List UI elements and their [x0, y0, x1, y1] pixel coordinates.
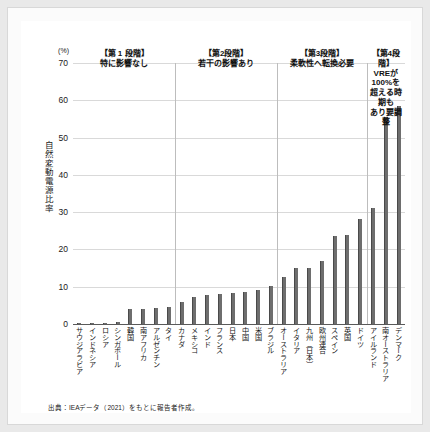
x-tick-label-南オーストラリア: 南オーストラリア [382, 327, 389, 415]
bar-slot [316, 63, 329, 324]
bar-メキシコ [192, 297, 196, 324]
bar-slot [328, 63, 341, 324]
x-label-slot: フランス [213, 327, 226, 415]
stage-subtitle: 若干の影響あり [175, 59, 277, 69]
x-label-slot: 南オーストラリア [379, 327, 392, 415]
bar-slot [354, 63, 367, 324]
bar-韓国 [128, 309, 132, 324]
x-label-slot: アイルランド [367, 327, 380, 415]
source-note: 出典：IEAデータ（2021）をもとに報告者作成。 [48, 402, 199, 412]
x-tick-label-オーストラリア: オーストラリア [280, 327, 287, 415]
bar-米国 [256, 290, 260, 324]
x-label-slot: イタリア [290, 327, 303, 415]
bar-フランス [218, 294, 222, 324]
bar-日本 [231, 293, 235, 324]
bar-slot [277, 63, 290, 324]
y-tick-50: 50 [59, 133, 68, 143]
bar-オーストラリア [282, 277, 286, 324]
x-tick-label-欧州連合: 欧州連合 [318, 327, 325, 415]
bar-インドネシア [90, 323, 94, 324]
bar-南オーストラリア [384, 117, 388, 324]
bar-slot [264, 63, 277, 324]
stage-title: 【第4段階】 [367, 49, 405, 69]
x-tick-label-スペイン: スペイン [331, 327, 338, 415]
bar-カナダ [180, 302, 184, 324]
bar-シンガポール [116, 322, 120, 324]
bar-アルゼンチン [154, 308, 158, 324]
y-tick-70: 70 [59, 58, 68, 68]
bar-slot [175, 63, 188, 324]
x-label-slot: ブラジル [264, 327, 277, 415]
bar-slot [290, 63, 303, 324]
bar-slot [162, 63, 175, 324]
x-label-slot: ドイツ [354, 327, 367, 415]
x-tick-label-アイルランド: アイルランド [369, 327, 376, 415]
bar-slot [213, 63, 226, 324]
bar-slot [137, 63, 150, 324]
x-tick-label-米国: 米国 [255, 327, 262, 415]
x-tick-label-日本: 日本 [229, 327, 236, 415]
bar-タイ [167, 307, 171, 324]
x-label-slot: 中国 [239, 327, 252, 415]
bar-ブラジル [269, 286, 273, 324]
x-label-slot: デンマーク [392, 327, 405, 415]
x-label-slot: 欧州連合 [316, 327, 329, 415]
bar-slot [201, 63, 214, 324]
bar-アイルランド [371, 208, 375, 324]
x-label-slot: 英国 [341, 327, 354, 415]
bar-slot [99, 63, 112, 324]
figure-frame: (%) 自然変動電源比率 010203040506070 【第 1 段階】特に影… [7, 7, 423, 425]
stage-header-stage-1: 【第 1 段階】特に影響なし [73, 49, 175, 69]
bar-slot [111, 63, 124, 324]
x-tick-label-九州（日本）: 九州（日本） [306, 327, 313, 415]
x-tick-label-イタリア: イタリア [293, 327, 300, 415]
bar-英国 [345, 235, 349, 324]
stage-header-stage-4: 【第4段階】VREが 100%を 超える時期も あり要調整 [367, 49, 405, 127]
stage-title: 【第2段階】 [175, 49, 277, 59]
y-tick-20: 20 [59, 244, 68, 254]
stage-subtitle: 特に影響なし [73, 59, 175, 69]
stage-subtitle: 柔軟性へ転換必要 [277, 59, 366, 69]
bar-slot [188, 63, 201, 324]
y-tick-60: 60 [59, 95, 68, 105]
bar-slot [150, 63, 163, 324]
x-label-slot: スペイン [328, 327, 341, 415]
stage-header-stage-2: 【第2段階】若干の影響あり [175, 49, 277, 69]
x-label-slot: 九州（日本） [303, 327, 316, 415]
stage-title: 【第3段階】 [277, 49, 366, 59]
x-tick-label-インド: インド [203, 327, 210, 415]
bar-欧州連合 [320, 261, 324, 324]
bar-slot [124, 63, 137, 324]
y-axis-title: 自然変動電源比率 [39, 141, 52, 213]
plot-area: 010203040506070 [73, 63, 405, 324]
bar-slot [86, 63, 99, 324]
x-tick-label-ドイツ: ドイツ [357, 327, 364, 415]
x-tick-label-フランス: フランス [216, 327, 223, 415]
bar-サウジアラビア [77, 323, 81, 324]
bar-インド [205, 295, 209, 324]
stage-title: 【第 1 段階】 [73, 49, 175, 59]
bar-slot [252, 63, 265, 324]
stage-subtitle: VREが 100%を 超える時期も あり要調整 [367, 69, 405, 128]
y-axis-unit-label: (%) [58, 47, 73, 54]
x-label-slot: 米国 [252, 327, 265, 415]
bar-slot [239, 63, 252, 324]
bar-イタリア [294, 268, 298, 324]
y-tick-40: 40 [59, 170, 68, 180]
bar-slot [73, 63, 86, 324]
figure-panel: (%) 自然変動電源比率 010203040506070 【第 1 段階】特に影… [21, 21, 411, 413]
y-tick-30: 30 [59, 207, 68, 217]
bar-series [73, 63, 405, 324]
bar-デンマーク [397, 106, 401, 324]
bar-中国 [243, 292, 247, 324]
y-tick-0: 0 [63, 319, 68, 329]
gridline-0: 0 [73, 324, 405, 325]
bar-九州（日本） [307, 268, 311, 324]
x-label-slot: オーストラリア [277, 327, 290, 415]
x-label-slot: 日本 [226, 327, 239, 415]
x-tick-label-デンマーク: デンマーク [395, 327, 402, 415]
bar-南アフリカ [141, 309, 145, 324]
stage-header-stage-3: 【第3段階】柔軟性へ転換必要 [277, 49, 366, 69]
bar-スペイン [333, 236, 337, 324]
bar-slot [341, 63, 354, 324]
